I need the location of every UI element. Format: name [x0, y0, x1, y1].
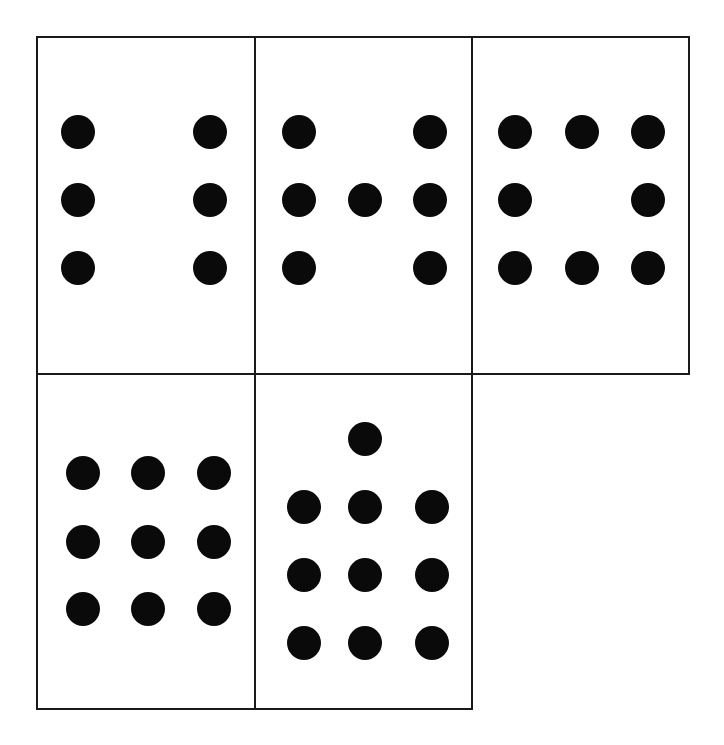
pip-dot — [498, 183, 532, 217]
pip-dot — [413, 115, 447, 149]
dot-card — [471, 36, 690, 375]
dot-card — [36, 36, 256, 375]
pip-dot — [197, 525, 231, 559]
pip-dot — [287, 558, 321, 592]
pip-dot — [348, 490, 382, 524]
pip-dot — [415, 490, 449, 524]
pip-dot — [498, 251, 532, 285]
pip-dot — [61, 183, 95, 217]
pip-dot — [631, 115, 665, 149]
pip-dot — [498, 115, 532, 149]
pip-dot — [348, 558, 382, 592]
pip-dot — [61, 115, 95, 149]
pip-dot — [413, 251, 447, 285]
pip-dot — [193, 251, 227, 285]
pip-dot — [287, 490, 321, 524]
pip-dot — [282, 251, 316, 285]
pip-dot — [287, 626, 321, 660]
pip-dot — [631, 183, 665, 217]
pip-dot — [66, 592, 100, 626]
pip-dot — [193, 183, 227, 217]
pip-dot — [282, 183, 316, 217]
pip-dot — [66, 525, 100, 559]
pip-dot — [565, 251, 599, 285]
dot-card — [254, 373, 473, 710]
pip-dot — [565, 115, 599, 149]
pip-dot — [348, 422, 382, 456]
pip-dot — [348, 626, 382, 660]
dot-card — [36, 373, 256, 710]
pip-dot — [131, 456, 165, 490]
pip-dot — [413, 183, 447, 217]
pip-dot — [131, 525, 165, 559]
pip-dot — [415, 626, 449, 660]
pip-dot — [66, 456, 100, 490]
pip-dot — [197, 456, 231, 490]
pip-dot — [131, 592, 165, 626]
pip-dot — [282, 115, 316, 149]
pip-dot — [348, 183, 382, 217]
pip-dot — [631, 251, 665, 285]
dot-pattern-card-stage — [0, 0, 724, 745]
dot-card — [254, 36, 473, 375]
pip-dot — [61, 251, 95, 285]
pip-dot — [197, 592, 231, 626]
pip-dot — [415, 558, 449, 592]
pip-dot — [193, 115, 227, 149]
